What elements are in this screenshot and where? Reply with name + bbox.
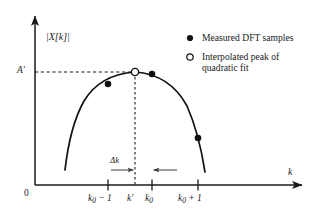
delta-k-label: Δk — [110, 156, 119, 166]
y-axis-label: |X[k]| — [46, 31, 70, 42]
legend-open-circle-marker — [187, 54, 193, 60]
dft-quadratic-interpolation-figure: |X[k]| A′ 0 k Δk k0 − 1 k′ k0 k0 + 1 Mea… — [0, 0, 317, 217]
interpolated-peak-marker — [131, 68, 138, 75]
data-point-k0 — [149, 71, 156, 78]
x-tick-label-k0-plus-1: k0 + 1 — [178, 193, 202, 205]
legend-filled-circle-marker — [187, 35, 193, 41]
origin-label: 0 — [24, 188, 29, 199]
x-axis-label: k — [288, 166, 292, 177]
x-tick-label-k0-minus-1: k0 − 1 — [88, 193, 112, 205]
tick-tail: − 1 — [96, 193, 112, 203]
legend-label-measured-samples: Measured DFT samples — [202, 33, 293, 44]
y-value-label: A′ — [17, 65, 25, 76]
data-point-k0-plus-1 — [195, 135, 202, 142]
tick-tail: + 1 — [186, 193, 202, 203]
legend-label-interpolated-peak-line2: quadratic fit — [202, 63, 249, 74]
x-tick-label-k0: k0 — [145, 193, 153, 205]
tick-subscript: 0 — [149, 196, 153, 205]
data-point-k0-minus-1 — [105, 81, 112, 88]
x-tick-label-k-prime: k′ — [127, 193, 133, 204]
